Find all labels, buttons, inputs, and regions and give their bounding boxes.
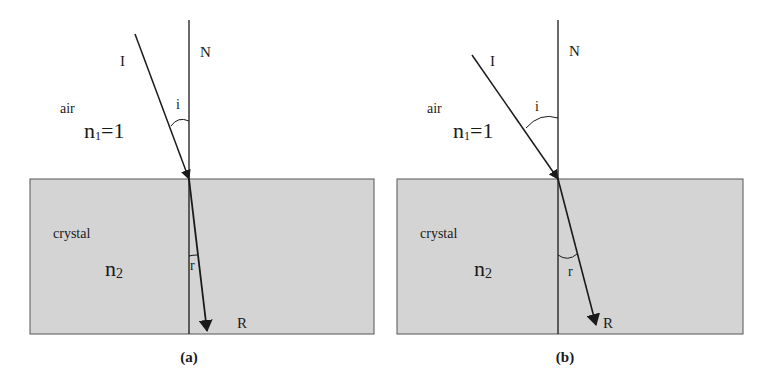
medium2-name: crystal — [53, 226, 90, 241]
crystal-block — [397, 179, 743, 334]
medium1-index: n1=1 — [84, 118, 124, 143]
medium2-name: crystal — [420, 226, 457, 241]
normal-label: N — [569, 43, 580, 59]
medium1-index: n1=1 — [453, 118, 493, 143]
refracted-ray-label: R — [237, 315, 247, 331]
refraction-angle-label: r — [568, 264, 573, 279]
incident-ray-label: I — [120, 53, 125, 69]
panel-caption: (b) — [556, 349, 574, 366]
incidence-angle-arc — [171, 119, 189, 126]
refracted-ray-label: R — [603, 315, 613, 331]
panel-b: N I i air n1=1 crystal n2 r R (b) — [397, 20, 743, 366]
incidence-angle-label: i — [535, 99, 539, 114]
medium1-name: air — [60, 101, 75, 116]
normal-label: N — [200, 44, 211, 60]
crystal-block — [30, 179, 374, 334]
refraction-diagram: N I i air n1=1 crystal n2 r R (a) N I i … — [0, 0, 770, 386]
medium1-name: air — [427, 101, 442, 116]
panel-a: N I i air n1=1 crystal n2 r R (a) — [30, 20, 374, 366]
incidence-angle-arc — [526, 116, 558, 128]
incidence-angle-label: i — [176, 97, 180, 112]
incident-ray — [135, 34, 189, 179]
refraction-angle-label: r — [190, 258, 195, 273]
panel-caption: (a) — [180, 349, 198, 366]
incident-ray-label: I — [490, 53, 495, 69]
